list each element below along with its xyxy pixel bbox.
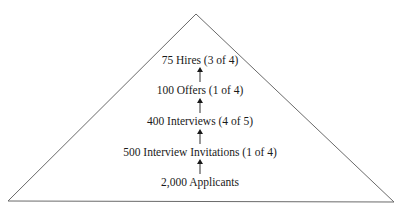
recruiting-pyramid-diagram: 75 Hires (3 of 4) 100 Offers (1 of 4) 40… <box>0 0 417 213</box>
stage-applicants-label: 2,000 Applicants <box>0 176 400 189</box>
stage-interviews-label: 400 Interviews (4 of 5) <box>0 115 400 128</box>
arrow-up-icon <box>195 159 205 175</box>
arrow-up-icon <box>195 67 205 83</box>
arrow-up-icon <box>195 129 205 145</box>
arrow-up-icon <box>195 98 205 114</box>
stage-interview-invitations-label: 500 Interview Invitations (1 of 4) <box>0 146 400 159</box>
stage-hires-label: 75 Hires (3 of 4) <box>0 54 400 67</box>
stage-offers-label: 100 Offers (1 of 4) <box>0 84 400 97</box>
